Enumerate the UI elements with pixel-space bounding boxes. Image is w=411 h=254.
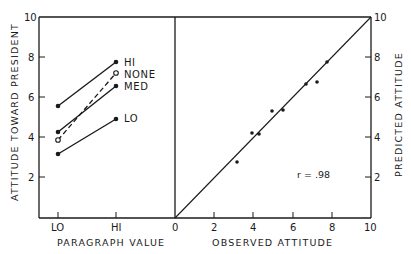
xtick-label: 0	[172, 222, 178, 233]
scatter-point	[250, 131, 254, 135]
xtick-label: 10	[364, 222, 377, 233]
xtick-label: 4	[250, 222, 256, 233]
series-label-lo: LO	[124, 113, 138, 124]
marker-open	[114, 71, 119, 76]
ytick-label: 2	[28, 172, 34, 183]
right-panel: 0 2 4 6 8 10 10 8 6 4 2 OBSERVED ATTITUD…	[172, 12, 404, 248]
series-label-none: NONE	[124, 69, 156, 80]
ytick-label: 10	[24, 12, 37, 23]
xtick-label: 8	[329, 222, 335, 233]
marker-filled	[114, 60, 119, 65]
left-x-axis-title: PARAGRAPH VALUE	[57, 237, 165, 248]
right-y-axis-title: PREDICTED ATTITUDE	[393, 52, 404, 177]
ytick-label: 4	[28, 132, 34, 143]
xtick-label: 2	[211, 222, 217, 233]
xtick-label: 6	[290, 222, 296, 233]
ytick-label: 8	[28, 52, 34, 63]
series-line-none	[58, 73, 116, 140]
scatter-point	[257, 132, 261, 136]
scatter-point	[304, 82, 308, 86]
marker-filled	[56, 104, 61, 109]
ytick-label: 6	[28, 92, 34, 103]
ytick-label: 10	[374, 12, 387, 23]
ytick-label: 2	[374, 172, 380, 183]
right-x-axis-title: OBSERVED ATTITUDE	[212, 237, 333, 248]
scatter-point	[235, 160, 239, 164]
series-label-med: MED	[124, 81, 148, 92]
correlation-annotation: r = .98	[297, 169, 330, 180]
scatter-point	[325, 60, 329, 64]
identity-line	[175, 17, 371, 218]
marker-open	[56, 138, 61, 143]
scatter-point	[270, 109, 274, 113]
figure: 10 8 6 4 2 LO HI PARAGRAPH VALUE ATTITUD…	[0, 0, 411, 254]
scatter-point	[315, 80, 319, 84]
left-panel: 10 8 6 4 2 LO HI PARAGRAPH VALUE ATTITUD…	[9, 12, 175, 248]
series-line-med	[58, 86, 116, 132]
ytick-label: 4	[374, 132, 380, 143]
ytick-label: 8	[374, 52, 380, 63]
xtick-label-lo: LO	[51, 222, 64, 233]
xtick-label-hi: HI	[111, 222, 121, 233]
left-y-axis-title: ATTITUDE TOWARD PRESIDENT	[9, 23, 20, 201]
ytick-label: 6	[374, 92, 380, 103]
marker-filled	[56, 130, 61, 135]
marker-filled	[56, 152, 61, 157]
series-label-hi: HI	[124, 57, 136, 68]
scatter-point	[281, 108, 285, 112]
marker-filled	[114, 84, 119, 89]
marker-filled	[114, 117, 119, 122]
